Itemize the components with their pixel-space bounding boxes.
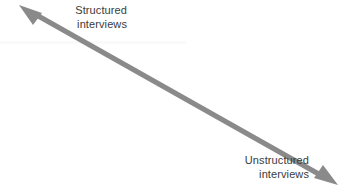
label-structured-line1: Structured xyxy=(0,4,127,18)
label-unstructured-line2: interviews xyxy=(160,168,309,182)
diagram-canvas: Structured interviews Unstructured inter… xyxy=(0,0,347,195)
arrow-shaft xyxy=(33,13,324,177)
label-structured-line2: interviews xyxy=(0,18,127,32)
label-unstructured-line1: Unstructured xyxy=(160,154,309,168)
label-structured-interviews: Structured interviews xyxy=(0,4,127,31)
label-unstructured-interviews: Unstructured interviews xyxy=(160,154,309,181)
arrowhead-unstructured-end xyxy=(314,165,338,185)
